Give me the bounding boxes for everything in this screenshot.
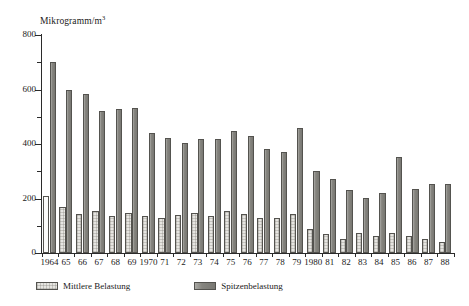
bar-spitzenbelastung — [412, 189, 418, 253]
legend-label-mittlere-belastung: Mittlere Belastung — [63, 281, 130, 291]
bar-mittlere-belastung — [125, 213, 131, 253]
bar-mittlere-belastung — [224, 211, 230, 253]
x-axis-line — [41, 253, 455, 254]
bar-mittlere-belastung — [76, 214, 82, 253]
y-axis-title-exponent: 3 — [102, 14, 105, 21]
x-tick — [272, 253, 273, 257]
y-tick-minor — [37, 226, 41, 227]
bar-mittlere-belastung — [439, 242, 445, 253]
bar-mittlere-belastung — [208, 216, 214, 253]
x-tick — [91, 253, 92, 257]
x-tick — [388, 253, 389, 257]
bar-spitzenbelastung — [165, 138, 171, 253]
bar-group — [241, 35, 254, 253]
bar-group — [356, 35, 369, 253]
x-tick — [206, 253, 207, 257]
x-tick — [371, 253, 372, 257]
bar-group — [191, 35, 204, 253]
bar-spitzenbelastung — [66, 90, 72, 254]
bar-mittlere-belastung — [389, 233, 395, 253]
bar-spitzenbelastung — [429, 184, 435, 253]
legend-item-mittlere-belastung: Mittlere Belastung — [36, 281, 130, 291]
x-tick — [190, 253, 191, 257]
bar-group — [406, 35, 419, 253]
bar-group — [323, 35, 336, 253]
bar-group — [224, 35, 237, 253]
y-tick-minor — [37, 62, 41, 63]
bar-group — [109, 35, 122, 253]
bar-group — [274, 35, 287, 253]
bar-spitzenbelastung — [198, 139, 204, 253]
y-axis-tick-group: 0200400600800 — [0, 0, 36, 306]
x-tick — [437, 253, 438, 257]
bar-spitzenbelastung — [396, 157, 402, 253]
bar-group — [142, 35, 155, 253]
bar-spitzenbelastung — [116, 109, 122, 253]
bar-spitzenbelastung — [182, 143, 188, 253]
x-tick — [239, 253, 240, 257]
bar-group — [307, 35, 320, 253]
legend-label-spitzenbelastung: Spitzenbelastung — [221, 281, 283, 291]
legend-item-spitzenbelastung: Spitzenbelastung — [194, 281, 283, 291]
x-tick — [421, 253, 422, 257]
bar-spitzenbelastung — [445, 184, 451, 253]
bar-mittlere-belastung — [323, 234, 329, 253]
bar-group — [158, 35, 171, 253]
bar-spitzenbelastung — [346, 190, 352, 253]
x-tick — [58, 253, 59, 257]
legend: Mittlere Belastung Spitzenbelastung — [36, 281, 283, 291]
bar-mittlere-belastung — [191, 213, 197, 253]
bar-chart: Mikrogramm/m3 0200400600800 Mittlere Bel… — [0, 0, 469, 306]
x-tick-label: 88 — [431, 258, 459, 267]
bar-spitzenbelastung — [132, 108, 138, 253]
plot-area — [42, 35, 454, 253]
bar-spitzenbelastung — [313, 171, 319, 253]
bar-mittlere-belastung — [373, 236, 379, 253]
bar-spitzenbelastung — [264, 149, 270, 253]
bar-group — [389, 35, 402, 253]
bar-mittlere-belastung — [92, 211, 98, 253]
bar-spitzenbelastung — [231, 131, 237, 253]
y-tick-minor — [37, 171, 41, 172]
y-tick-label: 0 — [6, 248, 36, 257]
bar-group — [43, 35, 56, 253]
bar-mittlere-belastung — [406, 236, 412, 253]
legend-swatch-spitzenbelastung — [194, 282, 216, 290]
bar-spitzenbelastung — [215, 139, 221, 253]
x-tick — [157, 253, 158, 257]
bar-mittlere-belastung — [43, 196, 49, 253]
bar-group — [340, 35, 353, 253]
bar-spitzenbelastung — [297, 128, 303, 253]
x-tick — [355, 253, 356, 257]
bar-group — [257, 35, 270, 253]
bar-group — [208, 35, 221, 253]
bar-group — [59, 35, 72, 253]
bar-group — [175, 35, 188, 253]
bar-group — [125, 35, 138, 253]
bar-spitzenbelastung — [149, 133, 155, 253]
bar-group — [92, 35, 105, 253]
y-tick-minor — [37, 117, 41, 118]
bar-spitzenbelastung — [379, 193, 385, 253]
bar-group — [76, 35, 89, 253]
x-tick — [173, 253, 174, 257]
bar-mittlere-belastung — [158, 218, 164, 253]
bar-mittlere-belastung — [307, 229, 313, 253]
bar-spitzenbelastung — [83, 94, 89, 253]
x-tick — [223, 253, 224, 257]
y-tick-label: 200 — [6, 194, 36, 203]
bar-spitzenbelastung — [99, 111, 105, 253]
y-axis-title: Mikrogramm/m3 — [40, 14, 105, 26]
bar-mittlere-belastung — [241, 214, 247, 253]
x-tick — [322, 253, 323, 257]
legend-swatch-mittlere-belastung — [36, 282, 58, 290]
bar-mittlere-belastung — [109, 216, 115, 253]
x-tick — [404, 253, 405, 257]
y-tick-label: 600 — [6, 85, 36, 94]
y-tick-label: 800 — [6, 30, 36, 39]
bar-spitzenbelastung — [330, 179, 336, 253]
bar-mittlere-belastung — [356, 233, 362, 253]
bar-mittlere-belastung — [257, 218, 263, 253]
bar-mittlere-belastung — [340, 239, 346, 253]
bar-spitzenbelastung — [248, 136, 254, 253]
